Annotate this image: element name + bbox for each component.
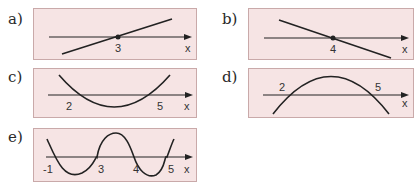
tick-4: 4 xyxy=(133,163,139,175)
panel-e-label: e) xyxy=(8,128,23,146)
graph-e: -1 3 4 5 x xyxy=(34,129,198,183)
tick-3: 3 xyxy=(115,42,121,54)
axis-label-x: x xyxy=(402,97,408,109)
tick-2: 2 xyxy=(66,100,72,112)
axis-label-x: x xyxy=(402,43,408,55)
panel-a-label: a) xyxy=(8,10,23,28)
arrow-icon xyxy=(185,92,193,98)
graph-panel-a: 3 x xyxy=(33,8,197,60)
tick-3: 3 xyxy=(98,163,104,175)
graph-a: 3 x xyxy=(34,9,198,61)
graph-panel-d: 2 5 x xyxy=(248,68,414,118)
axis-label-x: x xyxy=(184,100,190,112)
arrow-icon xyxy=(401,35,409,41)
panel-d-label: d) xyxy=(222,68,237,86)
tick-5: 5 xyxy=(157,100,163,112)
axis-label-x: x xyxy=(184,163,190,175)
arrow-icon xyxy=(184,34,192,40)
panel-b-label: b) xyxy=(222,10,237,28)
graph-c: 2 5 x xyxy=(34,69,198,119)
graph-d: 2 5 x xyxy=(249,69,415,119)
tick-4: 4 xyxy=(330,43,336,55)
graph-panel-e: -1 3 4 5 x xyxy=(33,128,197,182)
tick-2: 2 xyxy=(279,81,285,93)
arrow-icon xyxy=(185,154,193,160)
graph-panel-b: 4 x xyxy=(248,8,414,60)
panel-c-label: c) xyxy=(8,68,22,86)
graph-b: 4 x xyxy=(249,9,415,61)
tick-neg1: -1 xyxy=(43,163,53,175)
tick-5: 5 xyxy=(375,81,381,93)
tick-5: 5 xyxy=(168,163,174,175)
axis-label-x: x xyxy=(185,42,191,54)
graph-panel-c: 2 5 x xyxy=(33,68,197,118)
